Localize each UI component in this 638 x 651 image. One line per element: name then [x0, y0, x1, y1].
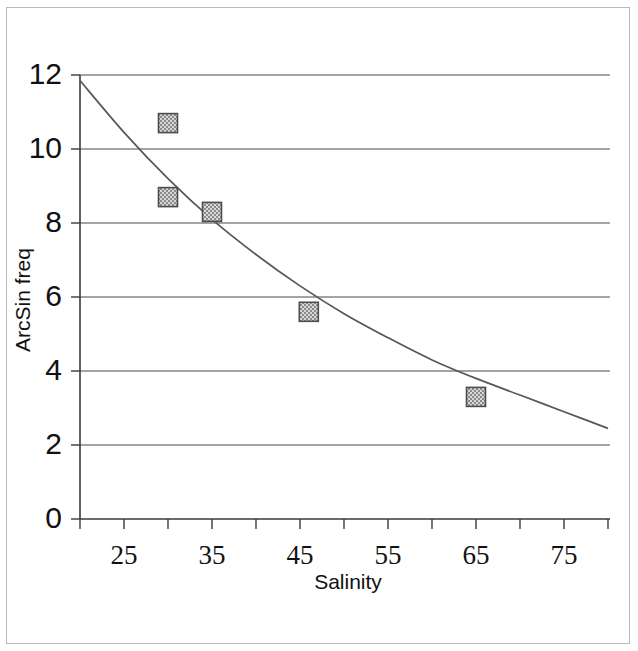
y-tick-label: 0	[45, 501, 62, 534]
x-tick-label: 25	[111, 540, 138, 570]
y-axis-ticks	[71, 75, 80, 519]
y-tick-label: 10	[29, 131, 62, 164]
x-tick-label: 55	[375, 540, 402, 570]
x-tick-label: 35	[199, 540, 226, 570]
chart-figure: 024681012 253545556575 ArcSin freq Salin…	[0, 0, 638, 651]
plot-area: 024681012 253545556575 ArcSin freq Salin…	[0, 0, 638, 651]
x-axis-title: Salinity	[314, 570, 382, 593]
x-tick-label: 45	[287, 540, 314, 570]
data-point-marker	[299, 302, 318, 321]
y-axis-title: ArcSin freq	[11, 248, 34, 352]
data-point-marker	[203, 202, 222, 221]
data-point-marker	[467, 387, 486, 406]
x-tick-label: 75	[551, 540, 578, 570]
data-point-marker	[159, 188, 178, 207]
data-point-marker	[159, 114, 178, 133]
y-tick-label: 8	[45, 205, 62, 238]
x-tick-label: 65	[463, 540, 490, 570]
y-tick-label: 2	[45, 427, 62, 460]
x-axis-ticks	[80, 519, 608, 529]
x-axis-tick-labels: 253545556575	[111, 540, 578, 570]
y-tick-label: 4	[45, 353, 62, 386]
y-tick-label: 12	[29, 57, 62, 90]
y-tick-label: 6	[45, 279, 62, 312]
